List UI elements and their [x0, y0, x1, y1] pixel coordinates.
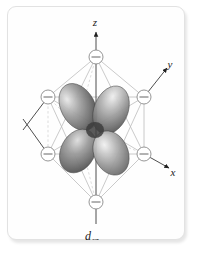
axis-label-x: x — [170, 166, 176, 178]
ligand-top — [89, 50, 103, 64]
orbital-caption: d xz — [85, 229, 100, 240]
axis-label-y: y — [167, 58, 173, 70]
orbital-caption-subscript: xz — [91, 236, 100, 240]
crystal-field-diagram: z y x d xz — [7, 6, 185, 240]
ligand-lower-left — [41, 147, 55, 161]
orbital-caption-base: d — [85, 229, 92, 240]
figure-card: z y x d xz — [0, 0, 198, 254]
ligand-upper-left — [41, 90, 55, 104]
ligand-bottom — [89, 195, 103, 209]
axis-label-z: z — [92, 16, 98, 28]
ligand-upper-right — [137, 90, 151, 104]
orbital-lobes — [51, 77, 136, 181]
lobe-center-node — [86, 122, 104, 138]
ligand-lower-right — [137, 147, 151, 161]
